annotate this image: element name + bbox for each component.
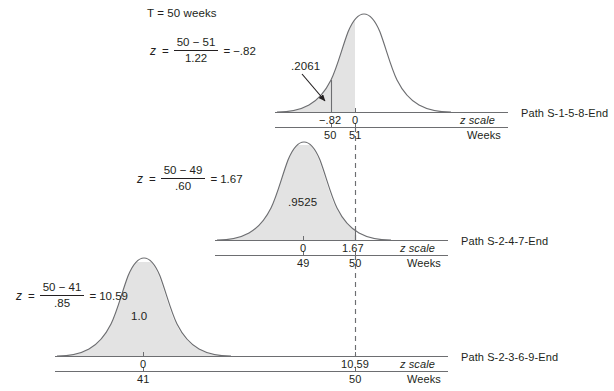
panel-1-weeks-axis-label: Weeks <box>467 129 501 141</box>
panel-3-formula-denominator: .85 <box>51 296 73 310</box>
panel-2-path-label: Path S-2-4-7-End <box>461 235 548 247</box>
panel-1-formula-fraction: 50 − 51 1.22 <box>174 36 219 65</box>
panel-2-formula-numerator: 50 − 49 <box>161 164 206 179</box>
panel-3-formula-fraction: 50 − 41 .85 <box>40 281 85 310</box>
panel-2-z-axis-label: z scale <box>400 242 435 254</box>
panel-1-week-tick-label-1: 50 <box>324 129 336 141</box>
panel-3-curve-group <box>55 258 448 372</box>
panel-2-z-tick-label-1: 0 <box>300 242 306 254</box>
panel-1-week-tick-label-2: 51 <box>349 129 361 141</box>
panel-3-path-label: Path S-2-3-6-9-End <box>461 351 558 363</box>
panel-3-z-tick-label-2: 10.59 <box>341 358 369 370</box>
panel-2-probability-label: .9525 <box>288 196 317 208</box>
panel-2-formula: z = 50 − 49 .60 = 1.67 <box>137 164 243 193</box>
panel-2-formula-z: z <box>137 172 143 186</box>
panel-3-formula-result: 10.59 <box>99 290 128 302</box>
panel-3-week-tick-label-2: 50 <box>349 373 361 385</box>
panel-1-z-tick-label-1: −.82 <box>319 114 341 126</box>
target-time-note: T = 50 weeks <box>147 7 217 19</box>
panel-2-formula-fraction: 50 − 49 .60 <box>161 164 206 193</box>
panel-1-formula-z: z <box>150 44 156 58</box>
panel-3-formula: z = 50 − 41 .85 = 10.59 <box>16 281 128 310</box>
panel-2-formula-result: 1.67 <box>220 173 242 185</box>
panel-1-formula-numerator: 50 − 51 <box>174 36 219 51</box>
panel-1-z-axis-label: z scale <box>460 114 495 126</box>
panel-3-formula-numerator: 50 − 41 <box>40 281 85 296</box>
panel-3-z-axis-label: z scale <box>400 358 435 370</box>
figure-canvas: T = 50 weeks z = 50 − 51 1.22 = −.82 .20… <box>0 0 614 391</box>
panel-2-week-tick-label-1: 49 <box>297 257 309 269</box>
panel-2-formula-denominator: .60 <box>172 179 194 193</box>
panel-2-weeks-axis-label: Weeks <box>407 257 441 269</box>
panel-1-formula: z = 50 − 51 1.22 = −.82 <box>150 36 256 65</box>
panel-1-formula-denominator: 1.22 <box>182 51 210 65</box>
panel-1-formula-result: −.82 <box>233 45 256 57</box>
panel-3-z-tick-label-1: 0 <box>140 358 146 370</box>
panel-3-probability-label: 1.0 <box>131 310 147 322</box>
panel-1-path-label: Path S-1-5-8-End <box>521 107 608 119</box>
panel-2-week-tick-label-2: 50 <box>349 257 361 269</box>
panel-1-probability-label: .2061 <box>291 60 320 72</box>
panel-3-formula-z: z <box>16 289 22 303</box>
panel-3-week-tick-label-1: 41 <box>137 373 149 385</box>
panel-2-curve-group <box>215 142 448 256</box>
panel-3-weeks-axis-label: Weeks <box>407 373 441 385</box>
panel-1-probability-arrow <box>302 74 325 101</box>
panel-1-z-tick-label-2: 0 <box>352 114 358 126</box>
panel-2-z-tick-label-2: 1.67 <box>342 242 364 254</box>
